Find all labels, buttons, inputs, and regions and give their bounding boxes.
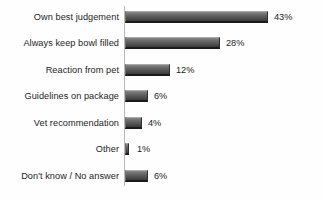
bar-container	[125, 170, 148, 182]
bar-container	[125, 64, 170, 76]
category-label: Guidelines on package	[0, 89, 119, 103]
bar-container	[125, 90, 148, 102]
bar	[125, 170, 148, 182]
bar	[125, 90, 148, 102]
bar	[125, 64, 170, 76]
value-label: 12%	[176, 63, 194, 77]
category-label: Other	[0, 142, 119, 156]
value-label: 6%	[154, 169, 167, 183]
bar-container	[125, 11, 268, 23]
value-label: 6%	[154, 89, 167, 103]
value-label: 1%	[137, 142, 150, 156]
chart-row: Always keep bowl filled 28%	[0, 36, 323, 50]
category-label: Always keep bowl filled	[0, 36, 119, 50]
bar-container	[125, 117, 142, 129]
category-label: Vet recommendation	[0, 116, 119, 130]
chart-row: Don't know / No answer 6%	[0, 169, 323, 183]
value-label: 43%	[274, 10, 292, 24]
chart-row: Other 1%	[0, 142, 323, 156]
bar-container	[125, 143, 129, 155]
chart-row: Own best judgement 43%	[0, 10, 323, 24]
chart-row: Reaction from pet 12%	[0, 63, 323, 77]
category-label: Reaction from pet	[0, 63, 119, 77]
chart-row: Vet recommendation 4%	[0, 116, 323, 130]
category-label: Own best judgement	[0, 10, 119, 24]
bar-chart: Own best judgement 43% Always keep bowl …	[0, 0, 323, 200]
bar	[125, 37, 220, 49]
value-label: 28%	[226, 36, 244, 50]
chart-row: Guidelines on package 6%	[0, 89, 323, 103]
bar	[125, 143, 129, 155]
bar	[125, 11, 268, 23]
bar	[125, 117, 142, 129]
category-label: Don't know / No answer	[0, 169, 119, 183]
value-label: 4%	[148, 116, 161, 130]
bar-container	[125, 37, 220, 49]
